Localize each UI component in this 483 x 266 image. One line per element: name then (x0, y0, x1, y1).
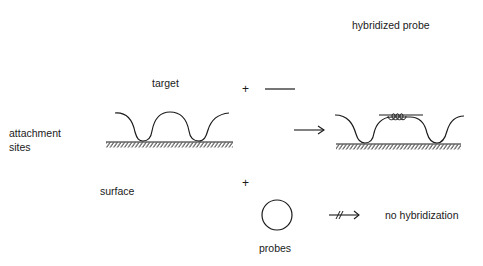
label-surface: surface (100, 185, 134, 198)
target-strand-right (335, 115, 464, 143)
plus-sign-bottom: + (242, 177, 249, 190)
label-attachment: attachment (9, 127, 61, 140)
surface-hatching-right (336, 145, 461, 150)
circular-probe (262, 200, 292, 230)
diagram-canvas (0, 0, 483, 266)
left-surface-assembly (106, 112, 233, 148)
label-sites: sites (9, 141, 31, 154)
label-probes: probes (259, 242, 291, 255)
reaction-arrow (294, 126, 324, 134)
surface-hatching-left (106, 143, 233, 148)
target-strand-left (115, 112, 229, 141)
right-surface-assembly (335, 114, 464, 150)
blocked-arrow (329, 211, 359, 219)
label-target: target (152, 77, 179, 90)
plus-sign-top: + (242, 83, 249, 96)
label-hybridized-probe: hybridized probe (352, 19, 430, 32)
label-no-hybridization: no hybridization (385, 209, 459, 222)
